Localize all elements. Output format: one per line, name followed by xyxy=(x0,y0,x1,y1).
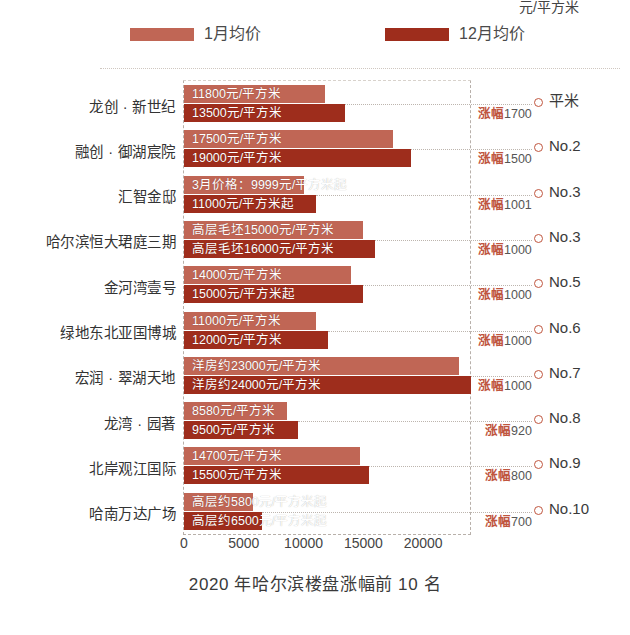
bar-jan[interactable]: 高层毛坯15000元/平方米 xyxy=(184,221,363,239)
growth-annotation: 涨幅1000 xyxy=(478,244,532,257)
bar-value-label: 15500元/平方米 xyxy=(192,469,282,482)
bar-value-label: 12000元/平方米 xyxy=(192,333,282,346)
bar-jan[interactable]: 高层约5800元/平方米起 xyxy=(184,493,253,511)
legend-item-dec: 12月均价 xyxy=(385,26,525,42)
chart-legend: 1月均价 12月均价 xyxy=(0,26,630,56)
category-label: 哈南万达广场 xyxy=(0,502,176,523)
growth-prefix: 涨幅 xyxy=(478,198,504,212)
growth-prefix: 涨幅 xyxy=(478,152,504,166)
bar-value-label: 洋房约24000元/平方米 xyxy=(192,379,321,392)
x-tick-label: 20000 xyxy=(404,536,443,550)
leader-line xyxy=(298,421,532,422)
growth-annotation: 涨幅1500 xyxy=(478,153,532,166)
growth-annotation: 涨幅1000 xyxy=(478,289,532,302)
bar-dec[interactable]: 15500元/平方米 xyxy=(184,466,369,484)
bar-jan[interactable]: 8580元/平方米 xyxy=(184,402,287,420)
leader-line xyxy=(375,240,532,241)
category-label: 汇智金邸 xyxy=(0,185,176,206)
bar-jan[interactable]: 11000元/平方米 xyxy=(184,312,316,330)
bar-dec[interactable]: 9500元/平方米 xyxy=(184,421,298,439)
leader-line xyxy=(411,149,532,150)
growth-annotation: 涨幅920 xyxy=(485,425,532,438)
x-axis-unit-label: 元/平方米 xyxy=(519,0,579,14)
category-label: 龙创 · 新世纪 xyxy=(0,94,176,115)
growth-value: 1000 xyxy=(504,243,532,257)
growth-prefix: 涨幅 xyxy=(478,243,504,257)
bar-dec[interactable]: 洋房约24000元/平方米 xyxy=(184,376,471,394)
bar-dec[interactable]: 高层毛坯16000元/平方米 xyxy=(184,240,375,258)
x-tick-label: 0 xyxy=(180,536,188,550)
rank-marker-icon xyxy=(534,98,543,107)
legend-label-dec: 12月均价 xyxy=(459,26,525,42)
rank-marker-icon xyxy=(534,370,543,379)
growth-annotation: 涨幅1000 xyxy=(478,335,532,348)
category-label: 北岸观江国际 xyxy=(0,456,176,477)
rank-marker-icon xyxy=(534,506,543,515)
bar-value-label: 高层毛坯15000元/平方米 xyxy=(192,224,334,237)
rank-label: No.9 xyxy=(549,455,581,470)
rank-marker-icon xyxy=(534,460,543,469)
rank-label: No.2 xyxy=(549,138,581,153)
growth-value: 1000 xyxy=(504,334,532,348)
bar-dec[interactable]: 13500元/平方米 xyxy=(184,104,345,122)
growth-value: 1000 xyxy=(504,379,532,393)
bar-value-label: 17500元/平方米 xyxy=(192,133,282,146)
growth-annotation: 涨幅1001 xyxy=(478,199,532,212)
leader-line xyxy=(328,331,533,332)
growth-value: 1700 xyxy=(504,107,532,121)
category-label: 宏润 · 翠湖天地 xyxy=(0,366,176,387)
leader-line xyxy=(262,512,532,513)
leader-line xyxy=(316,195,532,196)
chart-title: 2020 年哈尔滨楼盘涨幅前 10 名 xyxy=(0,570,630,595)
bar-dec[interactable]: 12000元/平方米 xyxy=(184,331,328,349)
x-tick-label: 10000 xyxy=(284,536,323,550)
bar-value-label: 14700元/平方米 xyxy=(192,450,282,463)
bar-jan[interactable]: 14000元/平方米 xyxy=(184,266,351,284)
bar-value-label: 14000元/平方米 xyxy=(192,269,282,282)
rank-label: 平米 xyxy=(549,93,579,108)
rank-label: No.10 xyxy=(549,501,589,516)
growth-prefix: 涨幅 xyxy=(485,424,511,438)
category-label: 龙湾 · 园著 xyxy=(0,411,176,432)
growth-value: 800 xyxy=(511,469,532,483)
bar-dec[interactable]: 15000元/平方米起 xyxy=(184,285,363,303)
leader-line xyxy=(363,285,532,286)
bar-dec[interactable]: 高层约6500元/平方米起 xyxy=(184,512,262,530)
rank-marker-icon xyxy=(534,415,543,424)
chart-row: 宏润 · 翠湖天地洋房约23000元/平方米洋房约24000元/平方米涨幅100… xyxy=(0,354,630,399)
chart-row: 哈尔滨恒大珺庭三期高层毛坯15000元/平方米高层毛坯16000元/平方米涨幅1… xyxy=(0,218,630,263)
chart-row: 汇智金邸3月价格：9999元/平方米起11000元/平方米起涨幅1001No.3 xyxy=(0,173,630,218)
bar-jan[interactable]: 11800元/平方米 xyxy=(184,85,325,103)
leader-line xyxy=(471,376,532,377)
bar-value-label: 高层毛坯16000元/平方米 xyxy=(192,243,334,256)
bar-value-label: 洋房约23000元/平方米 xyxy=(192,360,321,373)
rank-label: No.6 xyxy=(549,320,581,335)
bar-value-label: 3月价格：9999元/平方米起 xyxy=(192,178,347,191)
bar-jan[interactable]: 17500元/平方米 xyxy=(184,130,393,148)
growth-value: 1500 xyxy=(504,152,532,166)
growth-annotation: 涨幅1000 xyxy=(478,380,532,393)
rank-label: No.3 xyxy=(549,229,581,244)
leader-line xyxy=(369,466,532,467)
rank-label: No.5 xyxy=(549,274,581,289)
bar-dec[interactable]: 11000元/平方米起 xyxy=(184,195,316,213)
bar-dec[interactable]: 19000元/平方米 xyxy=(184,149,411,167)
category-label: 绿地东北亚国博城 xyxy=(0,321,176,342)
rank-label: No.3 xyxy=(549,184,581,199)
rank-marker-icon xyxy=(534,279,543,288)
bar-value-label: 11800元/平方米 xyxy=(192,88,281,101)
growth-prefix: 涨幅 xyxy=(478,334,504,348)
bar-jan[interactable]: 洋房约23000元/平方米 xyxy=(184,357,459,375)
growth-annotation: 涨幅700 xyxy=(485,516,532,529)
category-label: 哈尔滨恒大珺庭三期 xyxy=(0,230,176,251)
chart-row: 绿地东北亚国博城11000元/平方米12000元/平方米涨幅1000No.6 xyxy=(0,309,630,354)
x-axis: 05000100001500020000 xyxy=(0,536,630,558)
bar-value-label: 15000元/平方米起 xyxy=(192,288,295,301)
growth-value: 920 xyxy=(511,424,532,438)
bar-jan[interactable]: 14700元/平方米 xyxy=(184,447,360,465)
bar-value-label: 11000元/平方米起 xyxy=(192,197,294,210)
bar-value-label: 13500元/平方米 xyxy=(192,107,282,120)
bar-jan[interactable]: 3月价格：9999元/平方米起 xyxy=(184,176,304,194)
growth-annotation: 涨幅800 xyxy=(485,470,532,483)
chart-row: 龙湾 · 园著8580元/平方米9500元/平方米涨幅920No.8 xyxy=(0,399,630,444)
